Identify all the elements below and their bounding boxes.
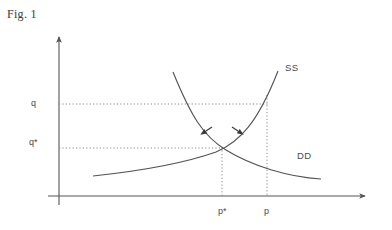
supply-curve-label: SS xyxy=(285,62,299,73)
convergence-arrow-supply xyxy=(232,127,241,133)
x-tick-label-p-star: p* xyxy=(218,206,227,216)
figure-container: Fig. 1 q q* p* p xyxy=(0,0,392,230)
y-tick-label-q: q xyxy=(31,98,36,108)
demand-curve-label: DD xyxy=(297,150,312,161)
y-tick-label-q-star: q* xyxy=(29,137,38,147)
x-tick-label-p: p xyxy=(264,206,269,216)
reference-line-group xyxy=(59,95,268,196)
supply-demand-plot xyxy=(0,0,392,230)
axis-group xyxy=(48,37,365,205)
demand-curve xyxy=(173,72,321,179)
supply-curve xyxy=(93,71,278,176)
convergence-arrow-demand xyxy=(203,127,212,133)
